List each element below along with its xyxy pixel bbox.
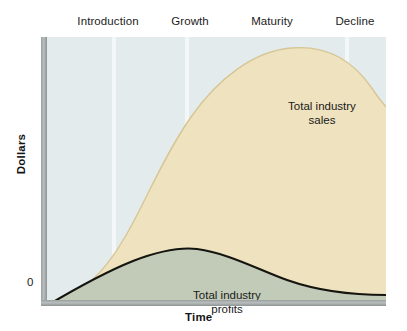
- stage-label-maturity: Maturity: [251, 14, 293, 28]
- plot-svg: [41, 37, 386, 306]
- stage-label-growth: Growth: [171, 14, 209, 28]
- x-axis-title: Time: [185, 311, 212, 323]
- y-axis-bar: [41, 37, 47, 306]
- product-life-cycle-figure: Introduction Growth Maturity Decline Dol…: [0, 0, 407, 331]
- x-axis-bar: [41, 300, 386, 306]
- stage-label-introduction: Introduction: [77, 14, 138, 28]
- annotation-total-industry-sales: Total industry sales: [288, 100, 356, 127]
- annotation-sales-line2: sales: [288, 114, 356, 128]
- annotation-sales-line1: Total industry: [288, 100, 356, 114]
- y-axis-title: Dollars: [15, 124, 27, 184]
- y-axis-zero-tick: 0: [27, 276, 33, 288]
- plot-area: Total industry sales Total industry prof…: [41, 37, 386, 306]
- stage-label-decline: Decline: [335, 14, 374, 28]
